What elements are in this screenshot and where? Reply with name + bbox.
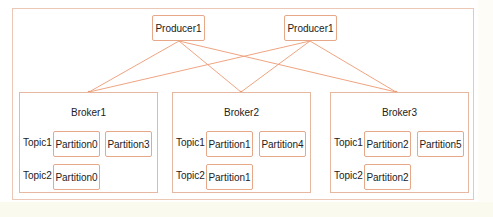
topic-label: Topic1 — [176, 137, 205, 148]
broker-node-3: Broker3 Topic1 Partition2 Partition5 Top… — [330, 92, 469, 193]
partition-node: Partition0 — [53, 131, 100, 157]
producer-label: Producer1 — [155, 23, 201, 34]
partition-label: Partition2 — [366, 139, 408, 150]
broker-node-2: Broker2 Topic1 Partition1 Partition4 Top… — [172, 92, 311, 193]
topic-label: Topic2 — [176, 170, 205, 181]
broker-title: Broker1 — [20, 107, 157, 118]
edge-producer0-broker1 — [89, 41, 179, 92]
partition-label: Partition0 — [55, 172, 97, 183]
partition-node: Partition1 — [206, 164, 253, 190]
partition-label: Partition1 — [208, 139, 250, 150]
partition-node: Partition0 — [53, 164, 100, 190]
partition-label: Partition5 — [419, 139, 461, 150]
producer-node-2: Producer1 — [284, 15, 337, 41]
edge-producer0-broker3 — [179, 41, 396, 92]
broker-title: Broker2 — [173, 107, 310, 118]
partition-node: Partition2 — [364, 131, 411, 157]
broker-title: Broker3 — [331, 107, 468, 118]
topic-label: Topic1 — [334, 137, 363, 148]
partition-node: Partition2 — [364, 164, 411, 190]
partition-label: Partition1 — [208, 172, 250, 183]
edge-producer1-broker1 — [89, 41, 310, 92]
partition-label: Partition3 — [107, 139, 149, 150]
partition-label: Partition4 — [261, 139, 303, 150]
partition-label: Partition2 — [366, 172, 408, 183]
topic-label: Topic2 — [23, 170, 52, 181]
edge-producer1-broker3 — [310, 41, 396, 92]
topic-label: Topic2 — [334, 170, 363, 181]
partition-node: Partition5 — [417, 131, 464, 157]
producer-node-1: Producer1 — [152, 15, 205, 41]
partition-node: Partition3 — [105, 131, 152, 157]
broker-node-1: Broker1 Topic1 Partition0 Partition3 Top… — [19, 92, 158, 193]
partition-node: Partition4 — [259, 131, 306, 157]
topic-label: Topic1 — [23, 137, 52, 148]
partition-label: Partition0 — [55, 139, 97, 150]
partition-node: Partition1 — [206, 131, 253, 157]
producer-label: Producer1 — [287, 23, 333, 34]
